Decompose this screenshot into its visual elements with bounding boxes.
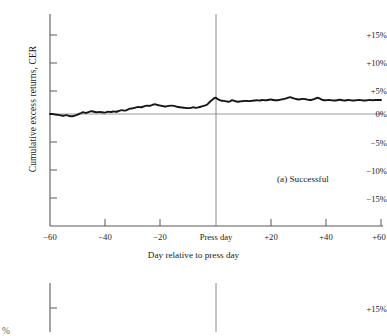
x-tick-label-plus20: +20 (264, 233, 277, 242)
panel-annotation-successful: (a) Successful (277, 174, 329, 184)
y-tick-label-plus15-panel-b: +15% (349, 304, 387, 314)
plot-area-next-cropped (0, 272, 387, 332)
x-tick-label-minus20: −20 (153, 233, 166, 242)
x-tick-label-minus40: −40 (98, 233, 111, 242)
y-tick-label-plus5: +5% (349, 87, 387, 96)
chart-panel-successful: Cumulative excess returns, CER +15% +10%… (0, 0, 387, 265)
x-tick-label-press-day: Press day (200, 233, 233, 242)
y-tick-label-minus10: −10% (349, 167, 387, 176)
x-tick-label-minus60: −60 (43, 233, 56, 242)
y-axis-title: Cumulative excess returns, CER (28, 14, 38, 204)
y-axis-ticks (50, 35, 57, 198)
x-tick-label-plus40: +40 (319, 233, 332, 242)
x-axis-ticks (105, 219, 381, 226)
plot-area-successful (0, 0, 387, 265)
y-tick-label-plus10: +10% (349, 59, 387, 68)
clipped-y-axis-title-panel-b: % (2, 326, 10, 336)
y-tick-label-zero: 0% (349, 110, 387, 119)
y-tick-label-minus15: −15% (349, 195, 387, 204)
y-tick-label-plus15: +15% (349, 31, 387, 40)
x-axis-title: Day relative to press day (0, 250, 387, 260)
chart-panel-next-cropped: +15% % (0, 272, 387, 332)
x-tick-label-plus60: +60 (372, 233, 385, 242)
y-tick-label-minus5: −5% (349, 139, 387, 148)
